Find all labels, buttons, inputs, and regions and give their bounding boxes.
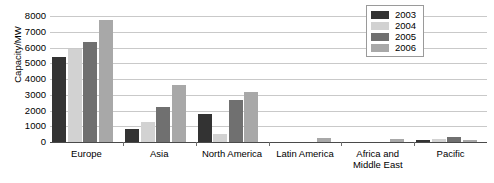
bar xyxy=(390,139,404,142)
legend-label: 2003 xyxy=(395,10,416,20)
chart-legend: 2003200420052006 xyxy=(366,5,424,57)
bar-group xyxy=(416,16,477,142)
bar xyxy=(229,100,243,142)
y-tick-label: 6000 xyxy=(12,43,46,53)
y-tick-label: 5000 xyxy=(12,58,46,68)
x-axis-category-label: Asia xyxy=(123,148,196,159)
legend-swatch xyxy=(371,44,389,52)
y-tick-label: 0 xyxy=(12,137,46,147)
legend-label: 2005 xyxy=(395,32,416,42)
bar-group xyxy=(52,16,113,142)
x-axis-tick xyxy=(414,142,415,146)
x-axis-category-label: Latin America xyxy=(269,148,342,159)
legend-item: 2006 xyxy=(371,42,416,53)
bar xyxy=(244,92,258,142)
bar xyxy=(99,20,113,142)
bar-chart: Capacity/MW 8000700060005000400030002000… xyxy=(0,0,494,183)
y-tick-label: 4000 xyxy=(12,74,46,84)
x-axis-category-label: North America xyxy=(196,148,269,159)
bar xyxy=(52,57,66,142)
y-tick-label: 8000 xyxy=(12,11,46,21)
bar xyxy=(447,137,461,143)
x-axis-category-label: Pacific xyxy=(414,148,487,159)
bar xyxy=(317,138,331,142)
bar xyxy=(432,139,446,142)
bar xyxy=(198,114,212,142)
legend-item: 2005 xyxy=(371,31,416,42)
bar xyxy=(125,129,139,142)
bar xyxy=(141,122,155,142)
bar xyxy=(83,42,97,142)
x-axis-tick xyxy=(196,142,197,146)
bar xyxy=(156,107,170,142)
legend-label: 2006 xyxy=(395,43,416,53)
bar-group xyxy=(271,16,332,142)
y-tick-label: 1000 xyxy=(12,121,46,131)
x-axis-category-label: Europe xyxy=(50,148,123,159)
bar-group xyxy=(198,16,259,142)
bar-group xyxy=(125,16,186,142)
legend-item: 2003 xyxy=(371,9,416,20)
bar xyxy=(416,140,430,142)
legend-label: 2004 xyxy=(395,21,416,31)
legend-swatch xyxy=(371,33,389,41)
y-tick-label: 7000 xyxy=(12,27,46,37)
x-axis-tick xyxy=(269,142,270,146)
y-tick-label: 2000 xyxy=(12,106,46,116)
bar xyxy=(68,49,82,142)
bar xyxy=(463,140,477,142)
bar xyxy=(172,85,186,142)
y-tick-label: 3000 xyxy=(12,90,46,100)
x-axis-tick xyxy=(123,142,124,146)
x-axis-category-label: Africa and Middle East xyxy=(341,148,414,170)
legend-swatch xyxy=(371,22,389,30)
x-axis-tick xyxy=(341,142,342,146)
legend-swatch xyxy=(371,11,389,19)
y-axis-tick-labels: 800070006000500040003000200010000 xyxy=(12,0,46,183)
bar xyxy=(213,134,227,142)
legend-item: 2004 xyxy=(371,20,416,31)
